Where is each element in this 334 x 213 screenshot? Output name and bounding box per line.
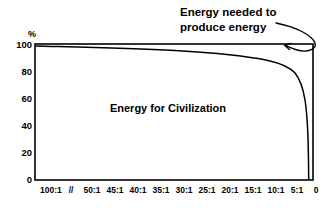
y-axis-unit-label: % [28,29,36,39]
x-tick-label-20-1: 20:1 [221,185,238,195]
x-tick-label-5-1: 5:1 [291,185,304,195]
y-tick-label-60: 60 [21,93,32,104]
x-tick-label-100-1: 100:1 [40,185,62,195]
x-tick-label-10-1: 10:1 [267,185,284,195]
energy-needed-label-line2: produce energy [180,21,267,33]
x-tick-label-15-1: 15:1 [244,185,261,195]
energy-for-civilization-label: Energy for Civilization [110,102,226,114]
eroi-line-chart: % 100 80 60 40 20 0 100:1 // 50:1 45:1 4… [0,0,334,213]
x-tick-label-axis-break: // [69,185,74,195]
annotation-arrow [276,23,315,51]
x-tick-label-0: 0 [314,185,319,195]
energy-needed-label-line1: Energy needed to [180,6,277,18]
x-tick-label-50-1: 50:1 [83,185,100,195]
y-tick-label-20: 20 [21,147,32,158]
y-tick-label-0: 0 [27,174,32,185]
x-tick-label-30-1: 30:1 [175,185,192,195]
x-tick-label-35-1: 35:1 [152,185,169,195]
y-tick-label-100: 100 [16,39,32,50]
y-tick-label-80: 80 [21,66,32,77]
x-tick-label-25-1: 25:1 [198,185,215,195]
chart-container: % 100 80 60 40 20 0 100:1 // 50:1 45:1 4… [0,0,334,213]
x-tick-label-45-1: 45:1 [106,185,123,195]
y-tick-label-40: 40 [21,120,32,131]
x-tick-label-40-1: 40:1 [129,185,146,195]
